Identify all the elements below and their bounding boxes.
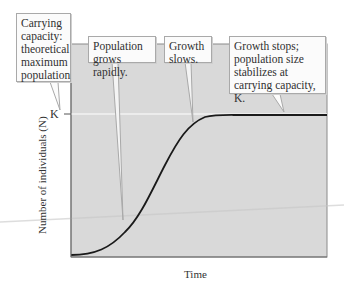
k-tick-label: K (50, 107, 59, 122)
y-axis-label: Number of individuals (N) (36, 116, 48, 234)
callout-growth-stops: Growth stops; population size stabilizes… (229, 36, 326, 94)
x-axis-label: Time (184, 268, 207, 280)
callout-carrying-capacity: Carrying capacity: theoretical maximum p… (16, 13, 71, 82)
callout-tail-carrying-capacity (50, 82, 60, 110)
callout-grows-rapidly: Population grows rapidly. (88, 36, 156, 63)
callout-growth-slows: Growth slows. (164, 36, 212, 63)
